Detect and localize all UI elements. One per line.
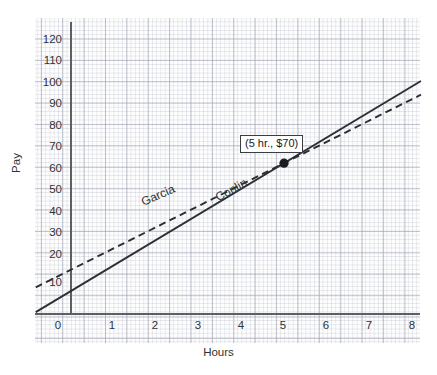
x-tick-label-5: 5 (271, 319, 295, 331)
y-tick-label-40: 40 (28, 205, 62, 217)
y-axis-title: Pay (10, 143, 22, 183)
x-tick-label-3: 3 (186, 319, 210, 331)
y-tick-label-80: 80 (28, 119, 62, 131)
data-point-callout: (5 hr., $70) (240, 135, 303, 153)
data-point-marker (279, 159, 288, 168)
y-tick-label-120: 120 (28, 33, 62, 45)
y-tick-label-30: 30 (28, 226, 62, 238)
x-tick-label-8: 8 (400, 319, 424, 331)
x-tick-label-1: 1 (100, 319, 124, 331)
x-tick-label-7: 7 (357, 319, 381, 331)
y-tick-label-70: 70 (28, 140, 62, 152)
y-tick-label-60: 60 (28, 162, 62, 174)
x-tick-label-2: 2 (143, 319, 167, 331)
x-tick-label-6: 6 (314, 319, 338, 331)
x-tick-label-4: 4 (229, 319, 253, 331)
y-tick-label-50: 50 (28, 183, 62, 195)
x-axis-title: Hours (0, 346, 437, 358)
x-tick-label-0: 0 (46, 319, 70, 331)
pay-vs-hours-chart: 120 110 100 90 80 70 60 50 40 30 20 10 0… (0, 0, 437, 375)
y-tick-label-90: 90 (28, 97, 62, 109)
y-tick-label-10: 10 (28, 276, 62, 288)
y-tick-label-100: 100 (28, 76, 62, 88)
y-tick-label-110: 110 (28, 54, 62, 66)
y-tick-label-20: 20 (28, 248, 62, 260)
